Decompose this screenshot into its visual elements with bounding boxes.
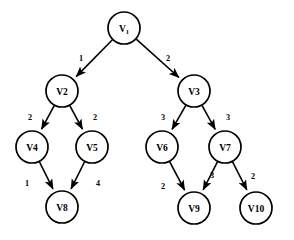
edge-weight-v3-v7: 3 bbox=[226, 113, 230, 122]
node-v2[interactable]: V2 bbox=[46, 75, 78, 107]
node-v6[interactable]: V6 bbox=[146, 131, 178, 163]
node-v8[interactable]: V8 bbox=[46, 191, 78, 223]
edges-layer bbox=[39, 39, 246, 190]
node-label-v4: V4 bbox=[26, 143, 38, 153]
edge-weight-v1-v3: 2 bbox=[166, 54, 170, 63]
edge-weight-v7-v10: 2 bbox=[251, 172, 255, 181]
node-v5[interactable]: V5 bbox=[76, 131, 108, 163]
node-label-v3: V3 bbox=[188, 87, 200, 97]
nodes-layer: V1V2V3V4V5V6V7V8V9V10 bbox=[16, 12, 272, 224]
edge-weight-v3-v6: 3 bbox=[161, 113, 165, 122]
edge-weight-v2-v5: 2 bbox=[93, 113, 97, 122]
node-label-v5: V5 bbox=[86, 143, 98, 153]
edge-weight-v2-v4: 2 bbox=[28, 113, 32, 122]
graph-canvas: V1V2V3V4V5V6V7V8V9V10 12223314232 bbox=[0, 0, 294, 240]
edge-v2-to-v4 bbox=[42, 106, 55, 130]
node-v3[interactable]: V3 bbox=[178, 75, 210, 107]
edge-weights-layer: 12223314232 bbox=[25, 54, 255, 191]
node-v7[interactable]: V7 bbox=[209, 131, 241, 163]
edge-v7-to-v10 bbox=[232, 162, 246, 190]
node-label-v2: V2 bbox=[56, 87, 68, 97]
node-v10[interactable]: V10 bbox=[240, 192, 272, 224]
edge-weight-v6-v9: 2 bbox=[161, 182, 165, 191]
edge-v2-to-v5 bbox=[70, 106, 83, 130]
edge-v3-to-v7 bbox=[202, 105, 215, 129]
edge-weight-v5-v8: 4 bbox=[96, 179, 100, 188]
edge-v3-to-v6 bbox=[172, 105, 186, 129]
edge-weight-v4-v8: 1 bbox=[25, 179, 29, 188]
node-v4[interactable]: V4 bbox=[16, 131, 48, 163]
node-label-v10: V10 bbox=[248, 204, 265, 214]
edge-v4-to-v8 bbox=[39, 162, 53, 189]
node-label-v6: V6 bbox=[156, 143, 168, 153]
node-label-v9: V9 bbox=[188, 204, 200, 214]
edge-weight-v7-v9: 3 bbox=[210, 171, 214, 180]
node-label-v7: V7 bbox=[219, 143, 231, 153]
edge-v1-to-v3 bbox=[136, 39, 179, 77]
edge-v6-to-v9 bbox=[170, 162, 185, 191]
graph-diagram: V1V2V3V4V5V6V7V8V9V10 12223314232 bbox=[0, 0, 294, 240]
edge-v5-to-v8 bbox=[71, 162, 85, 189]
edge-weight-v1-v2: 1 bbox=[79, 54, 83, 63]
node-v9[interactable]: V9 bbox=[178, 192, 210, 224]
node-v1[interactable]: V1 bbox=[108, 12, 140, 44]
node-label-v8: V8 bbox=[56, 203, 68, 213]
